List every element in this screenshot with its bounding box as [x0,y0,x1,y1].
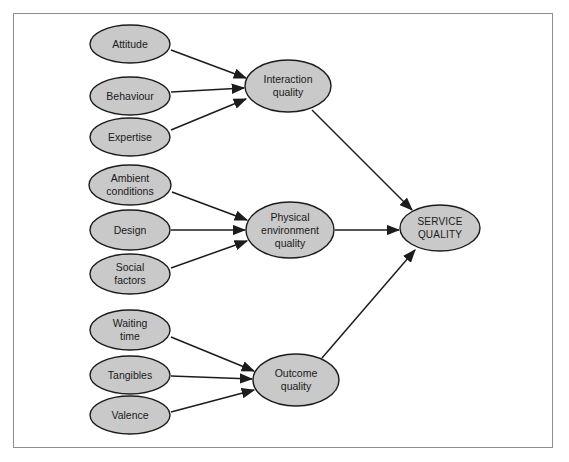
node-service-quality-label-line1: SERVICE [417,216,462,227]
edge-behaviour-to-interaction-quality [171,88,244,92]
edge-outcome-quality-to-service-quality [322,250,415,358]
node-valence[interactable]: Valence [90,396,170,434]
edge-waiting-time-to-outcome-quality [171,337,254,371]
node-outcome-quality-label-line2: quality [281,380,312,392]
node-outcome-quality-label-line1: Outcome [275,367,318,379]
node-expertise[interactable]: Expertise [90,118,170,156]
figure-root: Attitude Behaviour Expertise Ambient con… [0,0,569,462]
edge-ambient-conditions-to-physical-environment-quality [172,192,247,220]
node-waiting-time-label-line2: time [120,330,140,342]
node-physical-environment-quality-label-line1: Physical [270,211,309,223]
node-physical-environment-quality-label-line3: quality [275,237,306,249]
node-outcome-quality[interactable]: Outcome quality [253,354,339,406]
node-expertise-label: Expertise [108,131,152,143]
edge-interaction-quality-to-service-quality [312,110,412,210]
node-tangibles[interactable]: Tangibles [90,356,170,394]
node-social-factors-label-line2: factors [114,274,146,286]
node-service-quality[interactable]: SERVICE QUALITY [400,205,480,251]
edge-expertise-to-interaction-quality [171,99,246,130]
node-social-factors[interactable]: Social factors [90,254,170,294]
node-interaction-quality[interactable]: Interaction quality [245,60,331,112]
node-interaction-quality-label-line2: quality [273,86,304,98]
node-behaviour[interactable]: Behaviour [90,77,170,115]
service-quality-model-diagram: Attitude Behaviour Expertise Ambient con… [0,0,569,462]
node-physical-environment-quality-label-line2: environment [261,224,319,236]
node-attitude-label: Attitude [112,38,148,50]
node-service-quality-label-line2: QUALITY [418,229,462,240]
node-ambient-conditions-label-line2: conditions [106,185,153,197]
node-interaction-quality-label-line1: Interaction [263,73,312,85]
node-design[interactable]: Design [90,210,170,250]
node-tangibles-label: Tangibles [108,369,152,381]
node-attitude[interactable]: Attitude [90,25,170,63]
node-social-factors-label-line1: Social [116,261,145,273]
node-ambient-conditions[interactable]: Ambient conditions [89,165,171,205]
edge-tangibles-to-outcome-quality [171,376,252,379]
edge-attitude-to-interaction-quality [171,50,246,78]
nodes-layer: Attitude Behaviour Expertise Ambient con… [89,25,480,434]
node-physical-environment-quality[interactable]: Physical environment quality [246,202,334,258]
node-waiting-time[interactable]: Waiting time [90,310,170,350]
node-behaviour-label: Behaviour [106,90,154,102]
node-ambient-conditions-label-line1: Ambient [111,172,150,184]
edge-social-factors-to-physical-environment-quality [171,241,247,268]
node-design-label: Design [114,224,147,236]
figure-caption-strip [0,449,569,462]
node-waiting-time-label-line1: Waiting [113,317,148,329]
edge-valence-to-outcome-quality [171,390,254,412]
node-valence-label: Valence [111,409,148,421]
